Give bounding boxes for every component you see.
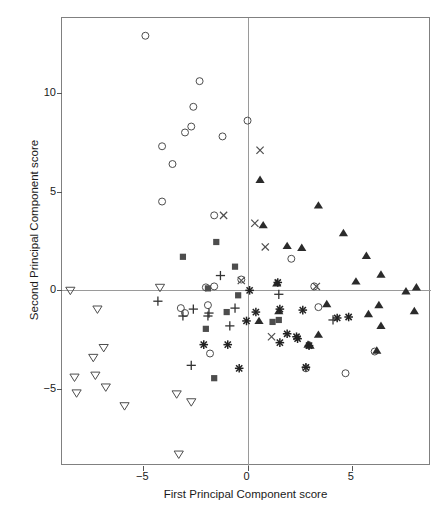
y-tick-label-10: 10: [44, 86, 56, 98]
data-point-filled-up-triangle: [314, 201, 323, 208]
data-point-asterisk: [252, 308, 261, 317]
data-point-filled-square: [235, 292, 241, 298]
data-point-asterisk: [298, 306, 307, 315]
data-point-asterisk: [293, 334, 302, 343]
data-point-open-down-triangle: [101, 384, 110, 391]
data-point-asterisk: [276, 305, 285, 314]
data-point-cross: [262, 243, 269, 250]
plot-area: [61, 17, 430, 465]
data-point-cross: [220, 212, 227, 219]
data-point-open-circle: [315, 304, 322, 311]
series-filled-up-triangle: [254, 176, 421, 354]
data-point-open-down-triangle: [99, 344, 108, 351]
x-tick-label-0: 0: [243, 470, 249, 482]
data-point-open-circle: [288, 255, 295, 262]
x-axis-tick-labels: −505: [61, 470, 430, 486]
x-tick-label--5: −5: [136, 470, 149, 482]
data-point-asterisk: [235, 364, 244, 373]
x-axis-title: First Principal Component score: [61, 488, 430, 500]
data-point-open-down-triangle: [174, 451, 183, 458]
data-point-filled-up-triangle: [376, 270, 385, 277]
y-tick-5: [57, 192, 62, 193]
series-open-down-triangle: [66, 284, 196, 458]
data-point-filled-square: [232, 264, 238, 270]
data-point-open-circle: [342, 370, 349, 377]
data-point-filled-up-triangle: [255, 176, 264, 183]
data-point-open-circle: [211, 283, 218, 290]
y-tick-10: [57, 93, 62, 94]
data-point-open-circle: [219, 133, 226, 140]
data-point-filled-square: [205, 285, 211, 291]
data-point-filled-up-triangle: [412, 283, 421, 290]
data-point-filled-square: [276, 317, 282, 323]
data-point-cross: [251, 220, 258, 227]
y-tick-label--5: −5: [43, 382, 56, 394]
data-point-open-circle: [204, 302, 211, 309]
data-point-plus: [216, 271, 225, 280]
data-point-open-down-triangle: [120, 403, 129, 410]
data-point-filled-up-triangle: [322, 300, 331, 307]
data-point-open-circle: [159, 198, 166, 205]
data-point-plus: [189, 305, 198, 314]
data-point-cross: [268, 333, 275, 340]
data-point-open-circle: [207, 350, 214, 357]
data-point-filled-up-triangle: [401, 287, 410, 294]
data-point-open-down-triangle: [72, 390, 81, 397]
data-point-open-down-triangle: [89, 354, 98, 361]
data-point-open-down-triangle: [93, 306, 102, 313]
data-point-plus: [225, 321, 234, 330]
data-point-asterisk: [242, 317, 251, 326]
data-point-filled-square: [224, 309, 230, 315]
data-point-filled-up-triangle: [314, 330, 323, 337]
data-point-filled-up-triangle: [376, 322, 385, 329]
y-axis-title: Second Principal Component score: [28, 30, 40, 430]
data-point-plus: [153, 297, 162, 306]
data-point-filled-up-triangle: [351, 277, 360, 284]
data-point-open-down-triangle: [66, 287, 75, 294]
data-point-plus: [274, 290, 283, 299]
data-point-open-down-triangle: [187, 399, 196, 406]
data-point-open-down-triangle: [91, 372, 100, 379]
y-tick--5: [57, 389, 62, 390]
data-point-open-circle: [196, 78, 203, 85]
data-point-plus: [230, 304, 239, 313]
data-point-filled-square: [211, 375, 217, 381]
data-point-asterisk: [276, 338, 285, 347]
series-asterisk: [199, 278, 352, 372]
data-point-asterisk: [302, 363, 311, 372]
data-point-open-circle: [142, 32, 149, 39]
data-point-asterisk: [223, 340, 232, 349]
data-point-cross: [256, 147, 263, 154]
data-point-open-down-triangle: [155, 284, 164, 291]
data-point-open-circle: [244, 117, 251, 124]
y-tick-label-0: 0: [50, 283, 56, 295]
data-point-asterisk: [283, 329, 292, 338]
series-filled-square: [180, 239, 282, 381]
data-point-filled-up-triangle: [374, 301, 383, 308]
data-point-filled-square: [203, 326, 209, 332]
data-point-layer: [62, 18, 431, 466]
data-point-open-circle: [182, 129, 189, 136]
data-point-asterisk: [245, 286, 254, 295]
data-point-filled-up-triangle: [372, 346, 381, 353]
data-point-filled-up-triangle: [339, 229, 348, 236]
data-point-filled-up-triangle: [254, 317, 263, 324]
data-point-filled-up-triangle: [410, 307, 419, 314]
y-tick-0: [57, 290, 62, 291]
pca-scatter-figure: 1050−5 −505 First Principal Component sc…: [0, 0, 443, 509]
x-tick-label-5: 5: [348, 470, 354, 482]
data-point-asterisk: [305, 341, 314, 350]
data-point-asterisk: [273, 278, 282, 287]
data-point-open-circle: [159, 143, 166, 150]
data-point-open-circle: [169, 161, 176, 168]
data-point-filled-up-triangle: [259, 221, 268, 228]
data-point-open-circle: [188, 123, 195, 130]
data-point-open-circle: [190, 103, 197, 110]
data-point-filled-up-triangle: [362, 252, 371, 259]
data-point-plus: [187, 361, 196, 370]
data-point-filled-square: [269, 319, 275, 325]
series-open-circle: [142, 32, 378, 376]
data-point-open-circle: [211, 212, 218, 219]
data-point-filled-square: [213, 239, 219, 245]
data-point-filled-square: [180, 254, 186, 260]
